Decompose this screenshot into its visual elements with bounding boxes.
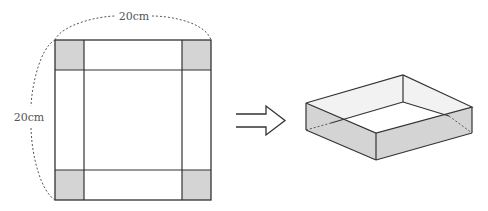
dimension-side: 20cm (14, 40, 55, 200)
corner-square-bottom-right (182, 170, 211, 200)
corner-square-top-left (55, 40, 84, 70)
paper-net (55, 40, 211, 200)
front-face-right (376, 107, 472, 160)
corner-square-top-right (182, 40, 211, 70)
corner-square-bottom-left (55, 170, 84, 200)
top-dimension-label: 20cm (119, 10, 150, 23)
open-box (306, 75, 472, 160)
side-dimension-label: 20cm (14, 111, 45, 124)
dimension-top: 20cm (55, 10, 211, 40)
transform-arrow-icon (236, 106, 285, 135)
diagram: 20cm 20cm (0, 0, 488, 211)
